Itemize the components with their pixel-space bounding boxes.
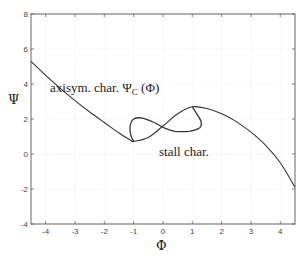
x-tick-label: -3 [71,227,79,236]
y-tick-label: 4 [24,80,29,89]
x-tick-label: 0 [161,227,166,236]
y-tick-label: -4 [21,220,29,229]
annotation-stall-char: stall char. [159,144,209,159]
y-axis-label: Ψ [8,92,19,107]
y-tick-label: 0 [24,150,29,159]
y-tick-label: 6 [24,45,29,54]
x-tick-label: 1 [190,227,195,236]
x-tick-label: -1 [130,227,138,236]
annotation-axisym-char: axisym. char. ΨC (Φ) [50,80,159,97]
axis-ticks: -4-3-2-101234-4-202468 [21,10,295,236]
grid-lines [31,14,295,224]
y-tick-label: 8 [24,10,29,19]
x-tick-label: 4 [278,227,283,236]
x-tick-label: 2 [219,227,224,236]
x-tick-label: -4 [42,227,50,236]
x-axis-label: Φ [156,238,167,253]
chart: -4-3-2-101234-4-202468 axisym. char. ΨC … [0,0,304,259]
y-tick-label: -2 [21,185,29,194]
y-tick-label: 2 [24,115,29,124]
x-tick-label: -2 [101,227,109,236]
x-tick-label: 3 [249,227,254,236]
